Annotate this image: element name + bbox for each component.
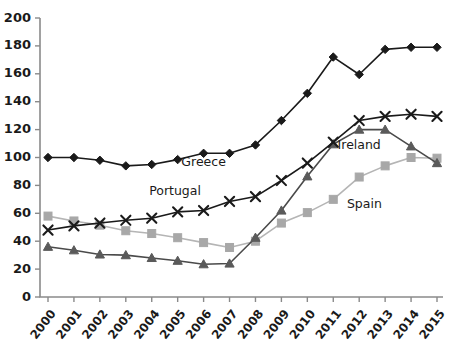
x-axis-ticks: 2000200120022003200420052006200720082009… [27,297,448,342]
data-marker-square [407,154,415,162]
y-tick-label: 100 [4,149,31,164]
y-tick-label: 40 [13,233,31,248]
x-tick-label: 2011 [313,307,345,342]
x-tick-label: 2015 [416,307,448,342]
y-tick-label: 180 [4,37,31,52]
data-marker-diamond [122,162,130,170]
y-tick-label: 80 [13,177,31,192]
x-tick-label: 2012 [338,307,370,342]
data-marker-x [277,176,286,185]
x-tick-label: 2004 [131,307,163,342]
series-label-ireland: Ireland [338,137,381,152]
y-tick-label: 20 [13,261,31,276]
x-tick-label: 2007 [209,307,241,342]
y-axis-ticks: 020406080100120140160180200 [4,10,40,304]
data-marker-diamond [70,153,78,161]
data-marker-diamond [225,149,233,157]
data-marker-diamond [407,43,415,51]
data-marker-diamond [44,153,52,161]
y-tick-label: 0 [22,289,31,304]
data-marker-square [148,230,156,238]
series-label-portugal: Portugal [149,183,201,198]
x-tick-label: 2005 [157,307,189,342]
data-marker-square [303,209,311,217]
data-marker-x [303,158,312,167]
data-marker-triangle [406,142,415,150]
line-chart: 0204060801001201401601802002000200120022… [0,0,451,345]
y-tick-label: 200 [4,10,31,25]
x-tick-label: 2008 [235,307,267,342]
series-annotations: GreecePortugalIrelandSpain [149,137,382,211]
chart-canvas: 0204060801001201401601802002000200120022… [0,0,451,345]
x-tick-label: 2003 [105,307,137,342]
series-label-spain: Spain [347,196,382,211]
data-marker-diamond [433,43,441,51]
series-greece [44,43,441,170]
series-portugal [43,110,441,235]
data-marker-square [355,173,363,181]
y-tick-label: 120 [4,121,31,136]
data-marker-square [226,243,234,251]
data-marker-diamond [148,160,156,168]
data-marker-square [329,195,337,203]
y-tick-label: 60 [13,205,31,220]
series-line-portugal [48,114,437,230]
data-marker-square [174,234,182,242]
data-marker-diamond [96,156,104,164]
x-tick-label: 2006 [183,307,215,342]
x-tick-label: 2013 [364,307,396,342]
data-marker-square [44,212,52,220]
data-marker-square [381,162,389,170]
data-marker-square [277,219,285,227]
y-tick-label: 140 [4,93,31,108]
x-tick-label: 2001 [53,307,85,342]
series-ireland [43,125,441,268]
x-tick-label: 2014 [390,307,422,342]
x-tick-label: 2010 [287,307,319,342]
y-tick-label: 160 [4,65,31,80]
data-marker-square [200,239,208,247]
data-marker-triangle [43,242,52,250]
data-marker-square [122,227,130,235]
x-tick-label: 2009 [261,307,293,342]
x-tick-label: 2000 [27,307,59,342]
x-tick-label: 2002 [79,307,111,342]
series-label-greece: Greece [181,154,226,169]
